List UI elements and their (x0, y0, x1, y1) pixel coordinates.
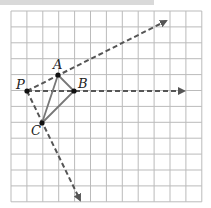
point-a (55, 72, 60, 77)
label-p: P (15, 77, 25, 92)
point-b (71, 88, 76, 93)
dilation-diagram: PABC (0, 0, 211, 208)
grid (11, 11, 202, 202)
rays (27, 21, 184, 200)
label-a: A (52, 57, 62, 72)
ray-PA (27, 21, 166, 91)
label-c: C (31, 123, 41, 138)
label-b: B (77, 76, 88, 91)
ray-PC (27, 91, 80, 200)
triangle-abc (42, 75, 74, 123)
point-p (24, 88, 29, 93)
